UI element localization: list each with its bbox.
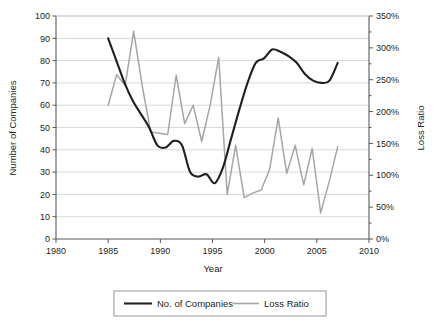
y2-axis-tick-label: 350% [376,11,399,21]
y2-axis-tick-label: 200% [376,107,399,117]
y2-axis-tick-label: 0% [376,234,389,244]
y2-axis-tick-label: 150% [376,139,399,149]
y-axis-tick-label: 20 [40,190,50,200]
y-axis-tick-label: 70 [40,78,50,88]
y2-axis-title: Loss Ratio [415,106,426,151]
x-axis-tick-label: 2000 [255,246,275,256]
chart-container: 0102030405060708090100 0%50%100%150%200%… [0,0,439,324]
y-axis-tick-label: 30 [40,167,50,177]
x-axis-tick-label: 1995 [202,246,222,256]
y-axis-tick-label: 40 [40,145,50,155]
y-axis-tick-label: 100 [35,11,50,21]
legend-label-no-of-companies: No. of Companies [157,298,233,309]
y-axis-tick-label: 60 [40,100,50,110]
chart-background [0,0,439,324]
y2-axis-tick-label: 100% [376,170,399,180]
x-axis-tick-label: 1980 [46,246,66,256]
y-axis-tick-label: 80 [40,56,50,66]
legend-label-loss-ratio: Loss Ratio [264,298,309,309]
y2-axis-tick-label: 300% [376,43,399,53]
y-axis-tick-label: 50 [40,123,50,133]
y-axis-tick-label: 90 [40,34,50,44]
y-axis-tick-label: 10 [40,212,50,222]
y-axis-title: Number of Companies [7,80,18,175]
x-axis-tick-label: 2010 [359,246,379,256]
line-chart: 0102030405060708090100 0%50%100%150%200%… [0,0,439,324]
chart-legend: No. of Companies Loss Ratio [114,291,326,316]
x-axis-tick-label: 1985 [98,246,118,256]
y2-axis-tick-label: 50% [376,202,394,212]
x-axis-tick-label: 1990 [150,246,170,256]
y2-axis-tick-label: 250% [376,75,399,85]
y-axis-tick-label: 0 [45,234,50,244]
x-axis-tick-label: 2005 [307,246,327,256]
x-axis-title: Year [203,263,222,274]
